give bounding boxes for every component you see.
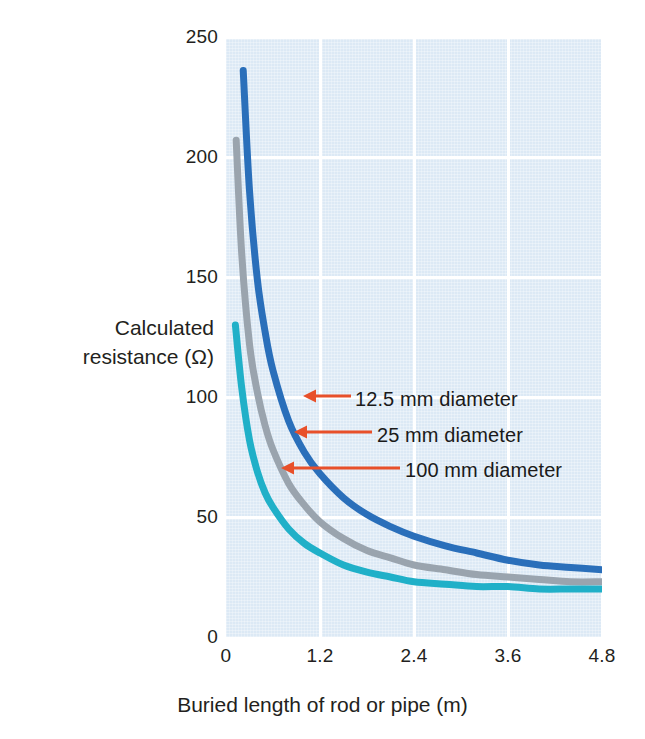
x-axis-label: Buried length of rod or pipe (m) [0,692,645,717]
x-axis-tick-label: 3.6 [478,646,538,665]
x-axis-tick-label: 2.4 [384,646,444,665]
x-axis-tick-label: 0 [196,646,256,665]
x-axis-tick-label: 4.8 [572,646,632,665]
annotation-label: 100 mm diameter [405,460,562,480]
series-line [235,325,602,589]
y-axis-label-line1: Calculated [8,313,214,342]
y-axis-tick-label: 50 [162,507,218,526]
y-axis-tick-label: 0 [162,627,218,646]
annotation-label: 25 mm diameter [377,425,523,445]
plot-area [226,37,602,637]
annotation-label: 12.5 mm diameter [355,389,518,409]
chart-figure: 050100150200250 01.22.43.64.8 Calculated… [0,0,645,739]
y-axis-tick-label: 200 [162,147,218,166]
y-axis-label: Calculated resistance (Ω) [8,313,214,371]
y-axis-tick-label: 150 [162,267,218,286]
y-axis-tick-label: 100 [162,387,218,406]
x-axis-tick-label: 1.2 [290,646,350,665]
series-line [236,140,602,582]
y-axis-tick-label: 250 [162,27,218,46]
y-axis-label-line2: resistance (Ω) [8,342,214,371]
series-curves [226,37,602,637]
